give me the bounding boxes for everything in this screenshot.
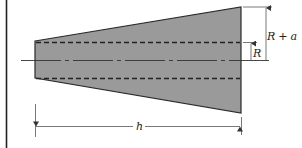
inner-radius-label: R xyxy=(252,47,261,60)
outer-radius-label: R+a xyxy=(266,30,297,43)
tapered-bar-diagram: R+a R h xyxy=(0,0,302,148)
length-label: h xyxy=(136,120,143,133)
tapered-bar-body xyxy=(35,7,241,113)
